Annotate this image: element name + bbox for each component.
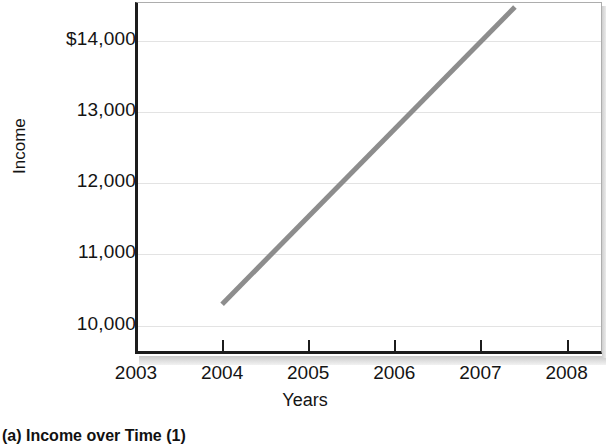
data-line-income	[222, 7, 515, 304]
y-axis-title: Income	[10, 146, 30, 174]
x-axis-title: Years	[235, 390, 375, 411]
figure-caption: (a) Income over Time (1)	[2, 427, 186, 445]
figure-income-over-time: $14,00013,00012,00011,00010,000 20032004…	[0, 0, 606, 445]
data-series-layer	[0, 0, 606, 445]
